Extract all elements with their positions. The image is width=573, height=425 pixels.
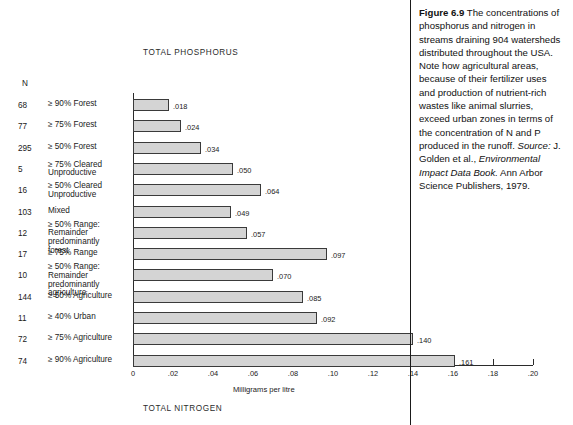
x-axis-tick-label: .16	[448, 369, 458, 378]
row-category-label: ≥ 90% Forest	[48, 100, 134, 109]
bar	[133, 227, 247, 239]
bar-value-label: .092	[321, 315, 335, 324]
bar-value-label: .050	[237, 166, 251, 175]
row-category-label: ≥ 75% ClearedUnproductive	[48, 161, 134, 178]
bar	[133, 355, 455, 367]
x-axis-tick-label: .20	[528, 369, 538, 378]
bar	[133, 206, 231, 218]
bottom-chart-title: TOTAL NITROGEN	[143, 404, 222, 413]
row-category-label: ≥ 75% Agriculture	[48, 334, 134, 343]
bar	[133, 142, 201, 154]
bar	[133, 269, 273, 281]
bar-value-label: .070	[277, 272, 291, 281]
x-axis-label: Milligrams per litre	[233, 385, 295, 394]
row-sample-size: 10	[18, 271, 46, 280]
bar-value-label: .018	[173, 102, 187, 111]
bar	[133, 291, 303, 303]
row-sample-size: 77	[18, 122, 46, 131]
figure-caption: Figure 6.9 The concentrations of phospho…	[419, 6, 565, 192]
row-category-label: ≥ 40% Urban	[48, 313, 134, 322]
row-sample-size: 74	[18, 357, 46, 366]
row-sample-size: 103	[18, 208, 46, 217]
bar	[133, 248, 327, 260]
caption-source-label: Source:	[518, 140, 551, 151]
x-axis-tick	[493, 359, 494, 365]
row-category-label: ≥ 50% Forest	[48, 143, 134, 152]
bar-row: 11≥ 40% Urban.092	[0, 312, 410, 333]
bar-value-label: .064	[265, 187, 279, 196]
row-sample-size: 68	[18, 101, 46, 110]
bar-value-label: .034	[205, 145, 219, 154]
bar-value-label: .161	[459, 358, 473, 367]
bar-value-label: .097	[331, 251, 345, 260]
bar-row: 68≥ 90% Forest.018	[0, 99, 410, 120]
panel-divider	[410, 0, 411, 425]
row-category-label: Mixed	[48, 207, 134, 216]
bar-value-label: .085	[307, 294, 321, 303]
x-axis-tick-label: .18	[488, 369, 498, 378]
row-sample-size: 12	[18, 229, 46, 238]
row-category-label: ≥ 50% ClearedUnproductive	[48, 182, 134, 199]
figure-panel: TOTAL PHOSPHORUS N 0.02.04.06.08.10.12.1…	[0, 0, 410, 425]
bar-row: 10≥ 50% Range:Remainder predominantlyagr…	[0, 269, 410, 290]
row-sample-size: 72	[18, 335, 46, 344]
caption-figure-number: Figure 6.9	[419, 7, 464, 18]
row-sample-size: 11	[18, 314, 46, 323]
row-sample-size: 295	[18, 144, 46, 153]
row-sample-size: 17	[18, 250, 46, 259]
bar	[133, 312, 317, 324]
bar	[133, 184, 261, 196]
bar	[133, 99, 169, 111]
row-category-label: ≥ 75% Range	[48, 249, 134, 258]
bar-value-label: .024	[185, 123, 199, 132]
bar-row: 74≥ 90% Agriculture.161	[0, 355, 410, 376]
bar	[133, 120, 181, 132]
bar-row: 72≥ 75% Agriculture.140	[0, 333, 410, 354]
row-category-label: ≥ 90% Agriculture	[48, 356, 134, 365]
bar-row: 77≥ 75% Forest.024	[0, 120, 410, 141]
bar-row: 12≥ 50% Range:Remainder predominantlyfor…	[0, 227, 410, 248]
bar-row: 144≥ 50% Agriculture.085	[0, 291, 410, 312]
row-category-label: ≥ 75% Forest	[48, 121, 134, 130]
bar-value-label: .140	[417, 336, 431, 345]
row-sample-size: 5	[18, 165, 46, 174]
bar-row: 16≥ 50% ClearedUnproductive.064	[0, 184, 410, 205]
bar-value-label: .049	[235, 209, 249, 218]
bar	[133, 333, 413, 345]
bar	[133, 163, 233, 175]
x-axis-tick	[533, 359, 534, 365]
row-sample-size: 144	[18, 293, 46, 302]
caption-body: The concentrations of phosphorus and nit…	[419, 7, 560, 151]
bar-chart-plot: 0.02.04.06.08.10.12.14.16.18.20 68≥ 90% …	[0, 0, 410, 425]
row-category-label: ≥ 50% Agriculture	[48, 292, 134, 301]
bar-value-label: .057	[251, 230, 265, 239]
row-sample-size: 16	[18, 186, 46, 195]
